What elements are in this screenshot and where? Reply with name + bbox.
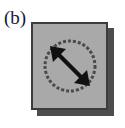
icon-arrow-shaft: [57, 53, 83, 79]
panel-label: (b): [4, 7, 26, 29]
resize-tool-button[interactable]: [31, 22, 108, 110]
figure-panel: (b): [0, 0, 125, 128]
button-face: [33, 24, 106, 108]
resize-diagonal-arrow-icon: [41, 37, 99, 95]
